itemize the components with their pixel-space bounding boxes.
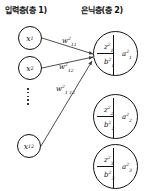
input-node-x1[interactable]: x1: [18, 26, 42, 50]
hidden-node-1-z: z21: [104, 42, 114, 53]
hidden-node-2[interactable]: z22 b22 a22: [93, 94, 138, 139]
edge-x12-to-h1: [41, 61, 92, 146]
hidden-node-1[interactable]: z21 b21 a21: [93, 31, 138, 76]
hidden-node-3[interactable]: z23 b23 a23: [93, 144, 138, 189]
weight-label-w2-1-12: w21 12: [56, 84, 75, 95]
hidden-node-3-z: z23: [104, 155, 114, 166]
hidden-node-1-b: b21: [104, 57, 114, 68]
hidden-node-3-a: a23: [122, 162, 132, 173]
hidden-node-3-divider-horizontal: [97, 166, 114, 167]
input-node-x12[interactable]: x12: [17, 134, 41, 158]
weight-label-w2-12: w212: [59, 62, 74, 73]
hidden-node-1-divider-horizontal: [97, 53, 114, 54]
hidden-node-2-a: a22: [122, 112, 132, 123]
weight-label-w2-11: w211: [62, 36, 77, 47]
hidden-node-1-a: a21: [122, 49, 132, 60]
input-node-x2[interactable]: x2: [18, 56, 42, 80]
hidden-node-1-divider-vertical: [113, 35, 114, 75]
hidden-node-2-b: b22: [104, 120, 114, 131]
input-node-x1-label: x1: [19, 27, 41, 49]
hidden-node-2-z: z22: [104, 105, 114, 116]
input-nodes-ellipsis: [27, 88, 29, 105]
neural-network-diagram: 입력층(층 1) 은닉층(층 2) x1 x2 x12 w211 w212 w2…: [0, 0, 146, 191]
input-node-x2-label: x2: [19, 57, 41, 79]
hidden-node-2-divider-horizontal: [97, 116, 114, 117]
hidden-node-3-divider-vertical: [113, 148, 114, 188]
hidden-node-2-divider-vertical: [113, 98, 114, 138]
hidden-node-3-b: b23: [104, 170, 114, 181]
input-node-x12-label: x12: [18, 135, 40, 157]
